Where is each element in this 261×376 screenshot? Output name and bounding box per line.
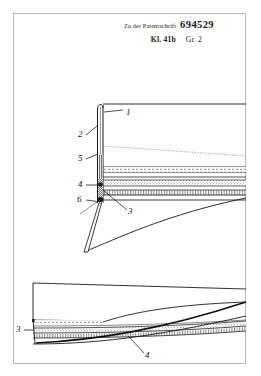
lower-top-edge [33, 283, 246, 289]
numeral-2: 2 [78, 130, 83, 139]
leader-line-1 [104, 110, 123, 112]
upper-tapered-tip [84, 203, 102, 252]
figure-upper [80, 104, 246, 252]
lower-band-a-fill [33, 320, 103, 325]
lower-inner-swell-curve [103, 302, 246, 322]
leader-line-6-branch [80, 202, 97, 214]
numeral-4-lower: 4 [145, 351, 150, 360]
upper-sweeping-curve [84, 198, 246, 252]
leader-line-2 [86, 126, 97, 135]
patent-sheet-page: Zu der Patentschrift 694529 Kl. 41b Gr. … [0, 0, 261, 376]
numeral-5: 5 [78, 154, 83, 163]
leader-line-5 [86, 154, 98, 159]
lower-left-band-marker [32, 319, 34, 322]
numeral-3-upper: 3 [128, 207, 133, 216]
upper-band-b-fill [102, 180, 246, 186]
numeral-1: 1 [126, 108, 131, 117]
numeral-6: 6 [77, 195, 82, 204]
upper-interior-faint-line [103, 146, 246, 156]
numeral-4-upper: 4 [78, 180, 83, 189]
leader-line-6 [86, 200, 98, 202]
leader-line-4-lower [128, 336, 144, 353]
upper-column-mid-knob [98, 182, 103, 186]
figure-lower [24, 283, 246, 353]
upper-band-c-fill [102, 190, 246, 195]
upper-band-a-fill [102, 167, 246, 172]
patent-drawing-canvas [0, 0, 261, 376]
numeral-3-lower: 3 [16, 325, 21, 334]
upper-column-base-knob [98, 197, 104, 202]
